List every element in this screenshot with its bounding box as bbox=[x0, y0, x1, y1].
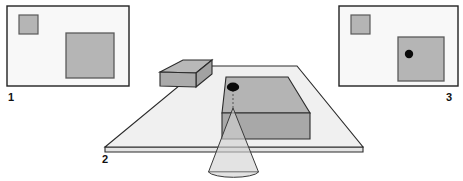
panel-1-large-square bbox=[66, 33, 114, 78]
panel-1-small-square bbox=[19, 15, 38, 34]
scene-figure: 1 2 3 bbox=[0, 0, 463, 181]
label-1: 1 bbox=[8, 91, 14, 103]
small-box-front-face bbox=[160, 72, 196, 87]
panel-3-large-square bbox=[398, 37, 444, 81]
figure-root: 1 2 3 bbox=[0, 0, 463, 181]
panel-1 bbox=[7, 6, 129, 86]
label-2: 2 bbox=[102, 153, 108, 165]
panel-3-small-square bbox=[351, 15, 370, 34]
label-3: 3 bbox=[446, 91, 452, 103]
scene-dot bbox=[227, 83, 239, 92]
panel-3 bbox=[339, 6, 458, 86]
panel-3-projected-dot bbox=[405, 50, 413, 58]
